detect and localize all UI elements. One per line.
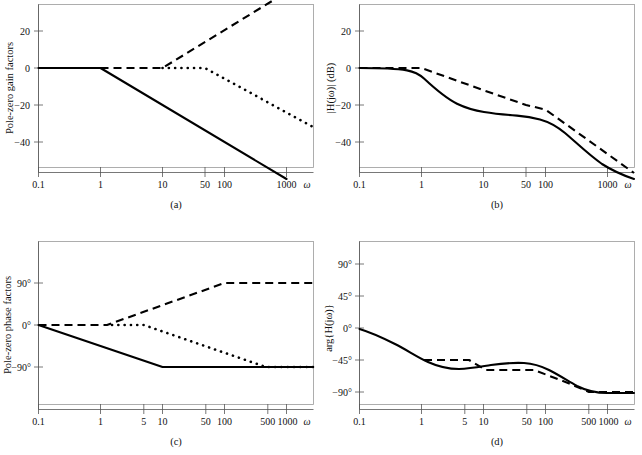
y-tick-labels-b: 20 0 −20 −40 [335, 26, 351, 148]
x-tick-label: 500 [260, 416, 275, 427]
y-tick-label: 0° [22, 320, 31, 331]
x-tick-label: 0.1 [32, 416, 45, 427]
x-ticks-d [360, 404, 608, 414]
x-tick-label: 1000 [598, 179, 618, 190]
y-tick-label: −90° [332, 387, 352, 398]
panel-caption-a: (a) [170, 199, 182, 211]
bode-plot-figure: 0.1 1 10 50 100 1000 ω 20 0 −20 −40 [0, 0, 642, 455]
x-tick-label: 10 [158, 416, 168, 427]
x-tick-label: 500 [581, 416, 596, 427]
y-tick-label: 0 [346, 63, 351, 74]
series-dashed-d [424, 360, 634, 392]
x-tick-label: 0.1 [353, 416, 366, 427]
x-axis-title-d: ω [624, 416, 631, 427]
x-axis-title-c: ω [303, 416, 310, 427]
x-tick-label: 1 [98, 416, 103, 427]
x-tick-label: 50 [521, 179, 531, 190]
x-tick-label: 10 [158, 179, 168, 190]
x-axis-title-a: ω [303, 179, 310, 190]
x-tick-label: 1 [419, 179, 424, 190]
panel-b: 0.1 1 10 50 100 1000 ω 20 0 −20 −40 |H(j… [321, 0, 642, 227]
x-tick-label: 50 [201, 416, 211, 427]
x-tick-label: 100 [538, 416, 553, 427]
x-ticks-a [39, 167, 287, 177]
x-tick-label: 0.1 [32, 179, 45, 190]
panel-b-svg: 0.1 1 10 50 100 1000 ω 20 0 −20 −40 |H(j… [321, 0, 642, 227]
y-tick-label: 90° [338, 259, 352, 270]
y-tick-label: −90° [11, 362, 31, 373]
plot-frame-c [39, 242, 314, 405]
y-tick-label: −40 [335, 137, 351, 148]
x-tick-label: 1 [98, 179, 103, 190]
y-tick-label: −20 [14, 100, 30, 111]
y-axis-title-a: Pole-zero gain factors [4, 42, 15, 134]
x-tick-label: 1000 [278, 416, 298, 427]
x-tick-labels-b: 0.1 1 10 50 100 1000 [353, 179, 617, 190]
x-tick-label: 1000 [599, 416, 619, 427]
y-tick-label: 0 [25, 63, 30, 74]
y-tick-label: 20 [20, 26, 30, 37]
y-tick-labels-c: 90° 0° −90° [11, 278, 31, 373]
x-tick-labels-a: 0.1 1 10 50 100 1000 [32, 179, 296, 190]
x-ticks-c [39, 404, 287, 414]
panel-caption-c: (c) [170, 436, 182, 448]
x-axis-title-b: ω [624, 179, 631, 190]
x-tick-label: 100 [217, 179, 232, 190]
x-tick-label: 10 [479, 416, 489, 427]
series-solid-a [39, 68, 287, 179]
x-tick-label: 100 [217, 416, 232, 427]
y-tick-label: 20 [341, 26, 351, 37]
panel-d-svg: 0.1 1 5 10 50 100 500 1000 ω 90° 45° 0° [321, 227, 642, 455]
series-solid-c [39, 325, 314, 367]
y-tick-label: 45° [338, 291, 352, 302]
y-axis-title-c: Pole-zero phase factors [2, 276, 13, 374]
x-ticks-b [360, 167, 608, 177]
x-tick-label: 1000 [277, 179, 297, 190]
panel-d: 0.1 1 5 10 50 100 500 1000 ω 90° 45° 0° [321, 227, 642, 455]
panel-caption-b: (b) [491, 199, 504, 211]
x-tick-label: 1 [419, 416, 424, 427]
x-tick-label: 5 [462, 416, 467, 427]
y-tick-label: −45° [332, 355, 352, 366]
x-tick-labels-d: 0.1 1 5 10 50 100 500 1000 [353, 416, 618, 427]
series-solid-b [360, 68, 635, 179]
x-tick-label: 10 [479, 179, 489, 190]
panel-a: 0.1 1 10 50 100 1000 ω 20 0 −20 −40 [0, 0, 321, 227]
plot-frame-d [360, 242, 635, 405]
y-axis-title-d: arg{H(jω)} [323, 304, 335, 352]
x-tick-label: 50 [522, 416, 532, 427]
series-solid-d [360, 329, 635, 393]
series-dashed-a [101, 0, 278, 68]
y-tick-label: 90° [17, 278, 31, 289]
y-tick-label: 0° [343, 323, 352, 334]
y-tick-label: −20 [335, 100, 351, 111]
x-tick-label: 100 [538, 179, 553, 190]
panel-c-svg: 0.1 1 5 10 50 100 500 1000 ω 90° 0° −90°… [0, 227, 321, 455]
plot-frame-a [39, 5, 314, 168]
panel-a-svg: 0.1 1 10 50 100 1000 ω 20 0 −20 −40 [0, 0, 321, 227]
series-dashed-c [39, 283, 314, 325]
y-axis-title-b: |H(jω)| (dB) [325, 62, 337, 113]
panel-caption-d: (d) [491, 436, 504, 448]
x-tick-label: 50 [200, 179, 210, 190]
x-tick-label: 0.1 [353, 179, 366, 190]
x-tick-labels-c: 0.1 1 5 10 50 100 500 1000 [32, 416, 297, 427]
y-tick-label: −40 [14, 137, 30, 148]
y-tick-labels-d: 90° 45° 0° −45° −90° [332, 259, 352, 398]
y-tick-labels-a: 20 0 −20 −40 [14, 26, 30, 148]
x-tick-label: 5 [141, 416, 146, 427]
panel-c: 0.1 1 5 10 50 100 500 1000 ω 90° 0° −90°… [0, 227, 321, 455]
